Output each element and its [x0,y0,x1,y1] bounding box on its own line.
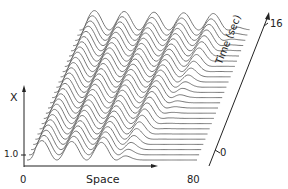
x-axis-label: X [10,92,18,103]
wave-traces [27,11,250,164]
space-axis-label: Space [86,174,120,185]
x-tick-label-1-0: 1.0 [4,150,18,159]
time-start-label: 0 [220,148,226,158]
space-end-label: 80 [187,175,200,185]
time-end-label: 16 [270,19,283,29]
waterfall-chart [0,0,288,189]
space-axis-arrow-icon [151,164,158,168]
space-origin-label: 0 [20,175,26,185]
x-axis-arrow-icon [22,85,26,92]
